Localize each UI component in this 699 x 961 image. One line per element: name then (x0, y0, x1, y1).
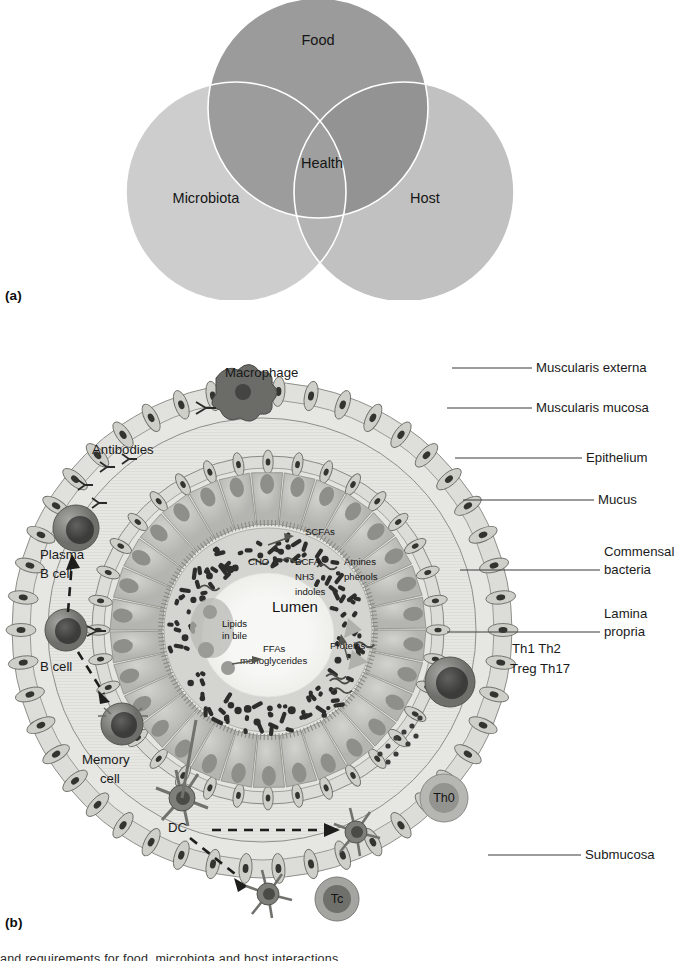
label-th-set-2: Treg Th17 (510, 661, 570, 676)
label-epithelium: Epithelium (586, 450, 648, 465)
label-th-set-1: Th1 Th2 (512, 641, 561, 656)
label-commensal-bacteria-2: bacteria (604, 562, 652, 577)
venn-diagram: Food Microbiota Host Health (0, 0, 699, 300)
label-macrophage: Macrophage (225, 365, 298, 380)
lumen-label-indoles: indoles (295, 586, 326, 597)
panel-b-label: (b) (5, 915, 23, 930)
label-muscularis-mucosa: Muscularis mucosa (536, 400, 650, 415)
label-plasma-bcell: B cell (40, 566, 72, 581)
lumen-label-scfas: SCFAs (305, 526, 335, 537)
lumen-label-bcfa: BCFA (295, 556, 321, 567)
figure-caption-partial: and requirements for food, microbiota an… (0, 952, 699, 961)
figure-root: Food Microbiota Host Health (a) (0, 0, 699, 961)
lumen-label-nh3: NH3 (295, 571, 314, 582)
label-plasma: Plasma (40, 547, 85, 562)
lumen-label-cho: CHO (248, 556, 269, 567)
lumen-label-proteins: Proteins (330, 640, 365, 651)
label-antibodies: Antibodies (92, 442, 154, 457)
badge-tc: Tc (331, 892, 344, 906)
venn-label-host: Host (410, 190, 440, 206)
right-label-group: Muscularis externaMuscularis mucosaEpith… (536, 360, 674, 862)
panel-a-label: (a) (5, 288, 22, 303)
lumen-label-phenols: phenols (344, 571, 378, 582)
effector-t-cell[interactable] (425, 657, 475, 707)
label-memory-cell: cell (100, 771, 120, 786)
label-dc: DC (168, 820, 188, 835)
label-memory: Memory (82, 752, 130, 767)
lumen-label-ffas: FFAs (263, 643, 286, 654)
venn-label-food: Food (301, 32, 334, 48)
label-mucus: Mucus (598, 492, 637, 507)
lumen-label-monoglycerides: monoglycerides (240, 655, 307, 666)
label-submucosa: Submucosa (585, 847, 655, 862)
intestine-cross-section: Muscularis externaMuscularis mucosaEpith… (0, 330, 699, 930)
plasma-b-cell[interactable] (53, 505, 99, 551)
label-commensal-bacteria: Commensal (604, 544, 674, 559)
label-bcell: B cell (40, 659, 72, 674)
label-lamina-propria: Lamina (604, 606, 648, 621)
label-muscularis-externa: Muscularis externa (536, 360, 647, 375)
badge-th0: Th0 (433, 791, 455, 805)
venn-label-health: Health (301, 155, 343, 171)
venn-label-microbiota: Microbiota (173, 190, 241, 206)
lumen-label-lipids: Lipids (222, 618, 247, 629)
label-lamina-propria-2: propria (604, 624, 646, 639)
lumen-label-amines: Amines (344, 556, 376, 567)
lumen-label-lumen: Lumen (272, 598, 318, 615)
lumen-label-in-bile: in bile (222, 630, 247, 641)
